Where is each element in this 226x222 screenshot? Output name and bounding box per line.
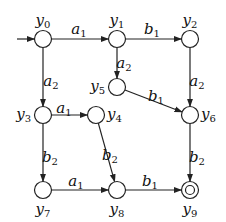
state-label-y6: y6 [200, 105, 216, 124]
edge-label-y0-y3: a2 [43, 72, 58, 91]
state-y2 [182, 31, 199, 48]
state-y0 [35, 31, 52, 48]
edge-label-y4-y8: b2 [102, 146, 118, 165]
edge-label-y3-y4: a1 [56, 99, 71, 118]
edge-label-y6-y9: b2 [189, 148, 205, 167]
state-label-y5: y5 [89, 77, 105, 96]
edge-label-y1-y2: b1 [144, 20, 160, 39]
state-label-y7: y7 [35, 200, 51, 219]
state-y6 [182, 107, 199, 124]
automaton-diagram: a1b1a2a2a2b1a1b2b2b2a1b1y0y1y2y3y4y5y6y7… [0, 0, 226, 222]
edge-label-y0-y1: a1 [71, 20, 86, 39]
edge-label-y3-y7: b2 [42, 148, 58, 167]
edge-label-y8-y9: b1 [142, 172, 158, 191]
state-label-y0: y0 [35, 11, 51, 30]
state-label-y4: y4 [106, 105, 122, 124]
state-y1 [109, 31, 126, 48]
state-label-y8: y8 [109, 200, 125, 219]
state-y5 [109, 79, 126, 96]
edge-label-y7-y8: a1 [68, 172, 83, 191]
state-y8 [109, 182, 126, 199]
accept-ring-y9 [186, 186, 195, 195]
state-y7 [35, 182, 52, 199]
state-label-y2: y2 [182, 11, 198, 30]
edge-label-y1-y5: a2 [116, 54, 131, 73]
state-label-y1: y1 [109, 11, 125, 30]
state-y4 [88, 107, 105, 124]
edge-label-y5-y6: b1 [148, 87, 164, 106]
state-y3 [35, 107, 52, 124]
state-label-y3: y3 [15, 105, 31, 124]
edge-label-y2-y6: a2 [189, 72, 204, 91]
state-label-y9: y9 [182, 200, 198, 219]
